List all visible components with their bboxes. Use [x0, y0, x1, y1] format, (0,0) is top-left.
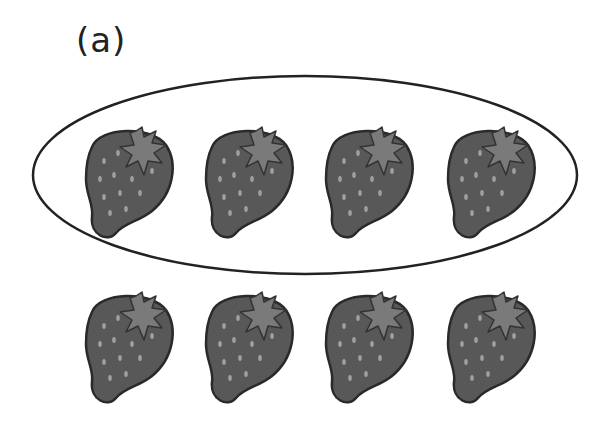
strawberry-icon — [206, 127, 293, 237]
strawberry-icon — [206, 292, 293, 402]
strawberry-icon — [326, 127, 413, 237]
strawberry-diagram — [0, 0, 610, 437]
strawberry-icon — [86, 127, 173, 237]
strawberry-icon — [448, 292, 535, 402]
circled-group — [86, 127, 535, 237]
bottom-row — [86, 292, 535, 402]
strawberry-icon — [448, 127, 535, 237]
strawberry-icon — [86, 292, 173, 402]
strawberry-icon — [326, 292, 413, 402]
